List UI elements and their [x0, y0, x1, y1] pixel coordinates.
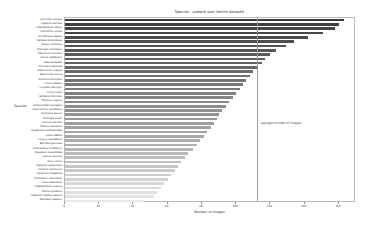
- y-tick-label: Tiburcium fruticans: [38, 52, 62, 55]
- bar-row: [65, 27, 354, 30]
- bar-row: [65, 169, 354, 172]
- bar-row: [65, 88, 354, 91]
- y-tick-label: Chondrilla juncea: [40, 30, 62, 33]
- bar-row: [65, 45, 354, 48]
- y-tick-label: Salvia verbenaca: [40, 56, 62, 59]
- bar: [65, 165, 178, 168]
- bar: [65, 58, 265, 61]
- bar: [65, 122, 214, 125]
- x-tick-label: 100: [233, 205, 238, 208]
- bar-row: [65, 144, 354, 147]
- bar-row: [65, 152, 354, 155]
- bar: [65, 148, 193, 151]
- y-tick-label: Portulaca oleracea: [39, 65, 62, 68]
- bar: [65, 174, 171, 177]
- y-tick-label: Malva sylvestris: [42, 190, 62, 193]
- bar: [65, 131, 207, 134]
- bar: [65, 96, 233, 99]
- bar-row: [65, 96, 354, 99]
- x-tick-label: 0: [63, 205, 65, 208]
- bar-row: [65, 148, 354, 151]
- bar: [65, 92, 236, 95]
- bar-row: [65, 53, 354, 56]
- bar: [65, 62, 262, 65]
- bar-row: [65, 113, 354, 116]
- bar: [65, 195, 154, 198]
- bar: [65, 75, 250, 78]
- bar: [65, 36, 308, 39]
- bar-row: [65, 19, 354, 22]
- bar: [65, 27, 335, 30]
- bar: [65, 105, 226, 108]
- y-tick-label: Tribulus terrestris: [40, 125, 62, 128]
- bar: [65, 88, 240, 91]
- y-tick-label: Alternanthera pungens: [33, 104, 62, 107]
- bar: [65, 79, 246, 82]
- bar: [65, 169, 175, 172]
- bar-row: [65, 66, 354, 69]
- y-tick-label: Cistus albidus: [45, 82, 62, 85]
- x-axis-title: Number of images: [64, 210, 355, 214]
- bar: [65, 40, 294, 43]
- x-tick-label: 160: [335, 205, 340, 208]
- bar-row: [65, 62, 354, 65]
- bar-row: [65, 122, 354, 125]
- y-tick-label: Nicotiana glauca: [41, 112, 62, 115]
- bar-row: [65, 75, 354, 78]
- y-tick-label: Chenopodium album: [36, 26, 62, 29]
- y-tick-label: Galium aparine: [43, 155, 62, 158]
- y-tick-label: Sonchus oleraceus: [39, 78, 62, 81]
- bar-row: [65, 32, 354, 35]
- bar-row: [65, 118, 354, 121]
- average-reference-line: [257, 18, 258, 201]
- bar-row: [65, 191, 354, 194]
- x-tick-label: 40: [131, 205, 134, 208]
- y-tick-label-group: Dittrichia viscosaCapparis spinosaChenop…: [0, 17, 62, 202]
- y-tick-label: Thymus vulgaris: [41, 99, 62, 102]
- y-tick-label: Verbena bonariensis: [37, 39, 63, 42]
- bar-row: [65, 195, 354, 198]
- x-tick-label: 20: [97, 205, 100, 208]
- bar-row: [65, 92, 354, 95]
- y-tick-label: Aldernet capillus-veneris: [31, 194, 62, 197]
- bar-row: [65, 165, 354, 168]
- bar: [65, 191, 157, 194]
- y-tick-label: Cissus boetidula: [42, 181, 62, 184]
- bar-row: [65, 70, 354, 73]
- bar-row: [65, 36, 354, 39]
- chart-figure: Species - sample size (entire dataset) S…: [0, 0, 374, 228]
- bar-row: [65, 161, 354, 164]
- y-tick-label: Tabacella repellus: [40, 198, 62, 201]
- y-tick-label: Dittrichia viscosa: [41, 18, 63, 21]
- bar-row: [65, 23, 354, 26]
- x-tick-label: 60: [165, 205, 168, 208]
- y-tick-label: Amaranthus retroflexus: [33, 108, 63, 111]
- plot-area: average number of images: [64, 17, 355, 202]
- bar: [65, 135, 204, 138]
- y-tick-label: Mercurialis annua: [40, 73, 62, 76]
- y-tick-label: Conyza canadensis: [38, 138, 62, 141]
- bar: [65, 118, 217, 121]
- bar: [65, 53, 270, 56]
- bar-row: [65, 178, 354, 181]
- bar-row: [65, 131, 354, 134]
- bar-row: [65, 83, 354, 86]
- y-tick-label: Arundinaria repens: [38, 35, 62, 38]
- bar: [65, 70, 253, 73]
- bar-row: [65, 174, 354, 177]
- bar-row: [65, 139, 354, 142]
- y-tick-label: Silybum marianum: [38, 168, 62, 171]
- bar: [65, 156, 185, 159]
- bar: [65, 152, 188, 155]
- bar: [65, 83, 243, 86]
- y-tick-label: Lactuca serriola: [42, 121, 62, 124]
- bar: [65, 182, 164, 185]
- bar: [65, 187, 161, 190]
- bar: [65, 23, 339, 26]
- y-tick-label: Digitaria sanguinalis: [36, 164, 62, 167]
- bar-row: [65, 105, 354, 108]
- x-tick-label: 120: [267, 205, 272, 208]
- bar: [65, 66, 257, 69]
- y-tick-label: Sorghum halepense: [37, 172, 62, 175]
- y-tick-label: Plantago major: [43, 117, 62, 120]
